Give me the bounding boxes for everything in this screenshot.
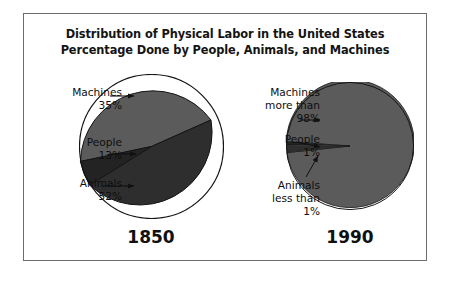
- callout-animals-1850-line-1: Animals: [32, 177, 122, 190]
- callout-people-1850-line-2: 13%: [38, 149, 122, 162]
- callout-machines-1850-line-2: 35%: [38, 99, 122, 112]
- chart-title-line-1: Distribution of Physical Labor in the Un…: [24, 27, 426, 43]
- callout-machines-1850-line-1: Machines: [38, 86, 122, 99]
- chart-frame: Distribution of Physical Labor in the Un…: [23, 13, 427, 261]
- callout-people-1990: People 1%: [236, 133, 320, 159]
- callout-people-1850: People 13%: [38, 136, 122, 162]
- callout-people-1990-line-2: 1%: [236, 146, 320, 159]
- callout-animals-1990-line-1: Animals: [232, 179, 320, 192]
- chart-title-block: Distribution of Physical Labor in the Un…: [24, 27, 426, 58]
- callout-machines-1990-line-2: more than: [236, 99, 320, 112]
- callout-machines-1850: Machines 35%: [38, 86, 122, 112]
- callout-animals-1990-line-2: less than: [232, 192, 320, 205]
- year-label-1850: 1850: [106, 227, 196, 247]
- callout-people-1990-line-1: People: [236, 133, 320, 146]
- chart-title-line-2: Percentage Done by People, Animals, and …: [24, 43, 426, 59]
- callout-machines-1990-line-1: Machines: [236, 86, 320, 99]
- callout-animals-1990: Animals less than 1%: [232, 179, 320, 219]
- callout-animals-1850-line-2: 52%: [32, 190, 122, 203]
- year-label-1990: 1990: [305, 227, 395, 247]
- callout-machines-1990: Machines more than 98%: [236, 86, 320, 126]
- callout-people-1850-line-1: People: [38, 136, 122, 149]
- callout-animals-1990-line-3: 1%: [232, 205, 320, 218]
- callout-machines-1990-line-3: 98%: [236, 112, 320, 125]
- callout-animals-1850: Animals 52%: [32, 177, 122, 203]
